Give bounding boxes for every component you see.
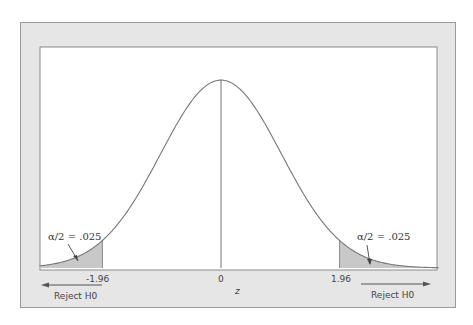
reject-label-left: Reject H0 <box>54 291 98 301</box>
arrow-right-icon <box>423 282 431 287</box>
normal-distribution-chart: α/2 = .025 α/2 = .025 -1.96 0 1.96 z Rej… <box>0 0 473 325</box>
x-axis-label: z <box>234 286 240 296</box>
reject-label-right: Reject H0 <box>371 290 415 300</box>
arrow-left-icon <box>41 283 49 288</box>
alpha-label-right: α/2 = .025 <box>357 231 411 242</box>
tick-label-zero: 0 <box>218 274 224 284</box>
alpha-label-left: α/2 = .025 <box>48 231 102 242</box>
tick-label-neg: -1.96 <box>86 274 110 284</box>
tick-label-pos: 1.96 <box>331 274 351 284</box>
